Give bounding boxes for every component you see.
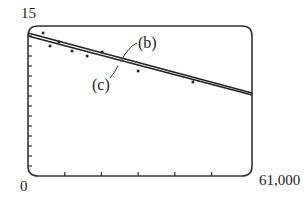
annotation-b: (b) <box>138 35 157 51</box>
data-point <box>192 81 195 84</box>
data-point <box>137 70 140 73</box>
chart-canvas <box>0 0 307 198</box>
annotation-c-leader <box>110 66 118 78</box>
annotation-c: (c) <box>92 77 110 93</box>
data-point <box>42 32 45 35</box>
x-max-label: 61,000 <box>259 173 300 188</box>
origin-label: 0 <box>20 179 28 194</box>
data-point <box>58 41 61 44</box>
data-point <box>86 55 89 58</box>
data-point <box>71 50 74 53</box>
data-point <box>101 51 104 54</box>
data-point <box>49 45 52 48</box>
y-max-label: 15 <box>21 6 36 21</box>
